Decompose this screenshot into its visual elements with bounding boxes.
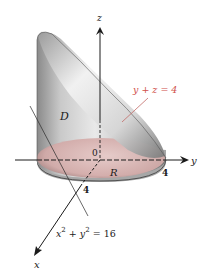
plane-equation-label: y + z = 4 [132,84,177,95]
cyl-eq-rhs: = 16 [90,228,116,239]
cylinder-equation-label: x2 + y2 = 16 [56,226,116,239]
cyl-eq-mid: + y [66,228,86,239]
origin-label: 0 [92,148,98,158]
x-arrow-icon [34,246,42,256]
y-axis-label: y [190,155,197,166]
solid-label-D: D [59,110,69,123]
base-label-R: R [109,167,118,178]
solid-diagram: z y x 0 4 4 D R y + z = 4 x2 + y2 = 16 [0,0,206,275]
x-axis-label: x [34,259,40,270]
x-tick-4: 4 [83,185,89,195]
z-axis-label: z [96,13,102,23]
y-tick-4: 4 [162,168,168,178]
